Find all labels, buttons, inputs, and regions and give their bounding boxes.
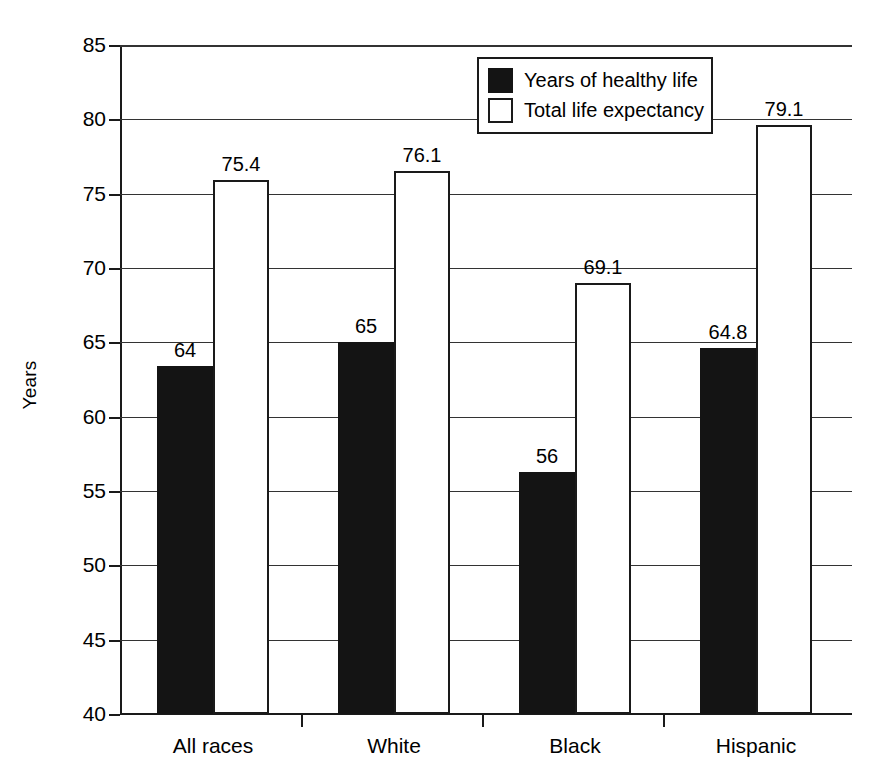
bar-value-label: 65 bbox=[355, 315, 377, 338]
y-tick-label: 80 bbox=[83, 107, 106, 131]
y-tick-mark bbox=[109, 194, 120, 196]
bar bbox=[213, 180, 269, 714]
chart-figure: Years 40455055606570758085 6475.46576.15… bbox=[0, 0, 885, 773]
bar bbox=[700, 348, 756, 714]
y-tick-mark bbox=[109, 417, 120, 419]
legend-swatch-light-icon bbox=[488, 98, 513, 123]
x-category-label: Hispanic bbox=[716, 734, 797, 758]
bar-value-label: 76.1 bbox=[403, 144, 442, 167]
y-tick-label: 45 bbox=[83, 628, 106, 652]
y-tick-label: 70 bbox=[83, 256, 106, 280]
bar bbox=[575, 283, 631, 714]
bar-value-label: 69.1 bbox=[584, 256, 623, 279]
y-tick-label: 85 bbox=[83, 33, 106, 57]
x-tick-mark bbox=[482, 714, 484, 727]
y-tick-mark bbox=[109, 45, 120, 47]
y-tick-mark bbox=[109, 565, 120, 567]
bar bbox=[756, 125, 812, 714]
plot-area: 40455055606570758085 6475.46576.15669.16… bbox=[120, 45, 852, 714]
x-category-label: Black bbox=[549, 734, 600, 758]
x-category-label: All races bbox=[173, 734, 254, 758]
bar bbox=[338, 342, 394, 714]
legend-swatch-dark-icon bbox=[488, 68, 513, 93]
x-tick-mark bbox=[663, 714, 665, 727]
y-axis-title: Years bbox=[19, 361, 41, 410]
legend-item: Years of healthy life bbox=[488, 65, 702, 95]
y-tick-mark bbox=[109, 714, 120, 716]
y-tick-mark bbox=[109, 640, 120, 642]
bar bbox=[394, 171, 450, 714]
gridline bbox=[120, 45, 852, 47]
bar-value-label: 64.8 bbox=[709, 321, 748, 344]
bar-value-label: 64 bbox=[174, 339, 196, 362]
bar-value-label: 56 bbox=[536, 445, 558, 468]
bar bbox=[519, 472, 575, 714]
y-tick-mark bbox=[109, 268, 120, 270]
bar-value-label: 79.1 bbox=[765, 98, 804, 121]
y-tick-label: 55 bbox=[83, 479, 106, 503]
y-tick-label: 50 bbox=[83, 553, 106, 577]
y-axis-line bbox=[120, 45, 122, 714]
legend-label: Years of healthy life bbox=[524, 69, 698, 92]
y-tick-label: 40 bbox=[83, 702, 106, 726]
y-tick-label: 65 bbox=[83, 330, 106, 354]
y-tick-label: 60 bbox=[83, 405, 106, 429]
bar bbox=[157, 366, 213, 714]
y-tick-mark bbox=[109, 342, 120, 344]
x-category-label: White bbox=[367, 734, 421, 758]
y-tick-mark bbox=[109, 491, 120, 493]
x-tick-mark bbox=[301, 714, 303, 727]
y-tick-mark bbox=[109, 119, 120, 121]
bar-value-label: 75.4 bbox=[222, 153, 261, 176]
legend-label: Total life expectancy bbox=[524, 99, 704, 122]
chart-legend: Years of healthy life Total life expecta… bbox=[477, 57, 713, 134]
y-tick-label: 75 bbox=[83, 182, 106, 206]
legend-item: Total life expectancy bbox=[488, 95, 702, 125]
